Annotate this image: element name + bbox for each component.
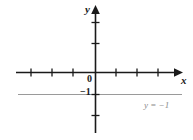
line-equation-annotation: y = −1: [144, 101, 169, 110]
y-axis-up-arrowhead-icon: [91, 5, 100, 14]
origin-label: 0: [87, 74, 92, 84]
axes-and-plot-svg: [0, 0, 193, 140]
y-axis-label: y: [85, 4, 90, 15]
coordinate-plane-figure: y x 0 −1 y = −1: [0, 0, 193, 140]
x-axis-label: x: [181, 75, 187, 86]
y-axis-group: [91, 5, 100, 133]
x-axis-group: [16, 68, 183, 77]
y-tick-label-negative-one: −1: [80, 87, 91, 97]
